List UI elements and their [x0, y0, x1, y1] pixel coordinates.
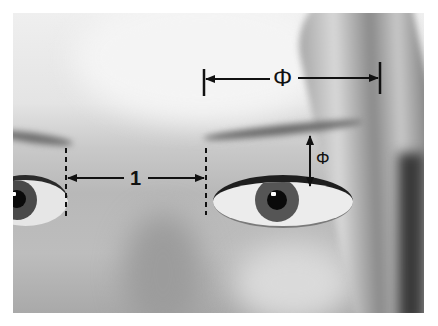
phi-height-label: Φ — [316, 150, 330, 167]
proportion-annotations — [0, 0, 438, 326]
phi-span-label: Φ — [273, 66, 292, 90]
inter-eye-distance-label: 1 — [130, 168, 141, 188]
